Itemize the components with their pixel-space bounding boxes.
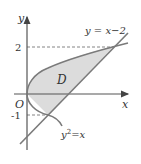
diagram-canvas: y x O 2 -1 D y = x−2 y2=x	[0, 0, 141, 164]
x-axis-label: x	[122, 98, 129, 111]
parabola-label-rest: =x	[71, 129, 85, 140]
parabola-equation-label: y2=x	[60, 128, 86, 140]
region-d	[27, 47, 113, 115]
tick-label-2: 2	[15, 42, 21, 53]
line-equation-label: y = x−2	[84, 25, 126, 36]
tick-label-neg1: -1	[11, 110, 21, 121]
y-axis-label: y	[17, 12, 25, 25]
region-label: D	[56, 73, 67, 87]
